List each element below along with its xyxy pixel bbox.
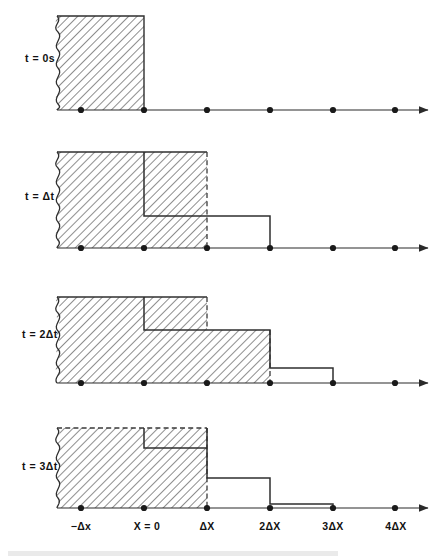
clipped-caption-strip [8,551,338,556]
grid-dot [267,245,273,251]
grid-dot [392,245,398,251]
step-diffusion-diagram: t = 0s t = Δt [0,0,441,559]
axis-tick-label-4dx: 4ΔX [385,520,406,532]
grid-dot [392,380,398,386]
axis-tick-label-neg-dx: −Δx [71,520,91,532]
grid-dot [392,505,398,511]
figure-root: t = 0s t = Δt [0,0,441,559]
grid-dot [267,107,273,113]
grid-dot [78,380,84,386]
time-label-t3: t = 3Δt [22,460,58,472]
hatched-block [56,16,144,110]
grid-dot [330,505,336,511]
grid-dot [330,380,336,386]
axis-tick-label-origin: X = 0 [134,520,160,532]
grid-dot [267,380,273,386]
grid-dot [78,107,84,113]
grid-dot [330,245,336,251]
time-label-t2: t = 2Δt [22,328,58,340]
time-label-t1: t = Δt [25,190,55,202]
grid-dot [141,505,147,511]
grid-dot [78,505,84,511]
grid-dot [267,505,273,511]
grid-dot [78,245,84,251]
grid-dot [330,107,336,113]
grid-dot [141,245,147,251]
axis-tick-label-dx: ΔX [199,520,214,532]
time-label-t0: t = 0s [25,52,55,64]
grid-dot [141,107,147,113]
grid-dot [204,505,210,511]
hatched-block [56,428,207,508]
grid-dot [141,380,147,386]
axis-tick-label-2dx: 2ΔX [259,520,280,532]
grid-dot [204,107,210,113]
grid-dot [204,380,210,386]
grid-dot [204,245,210,251]
grid-dot [392,107,398,113]
axis-tick-label-3dx: 3ΔX [322,520,343,532]
hatched-block [56,152,207,248]
